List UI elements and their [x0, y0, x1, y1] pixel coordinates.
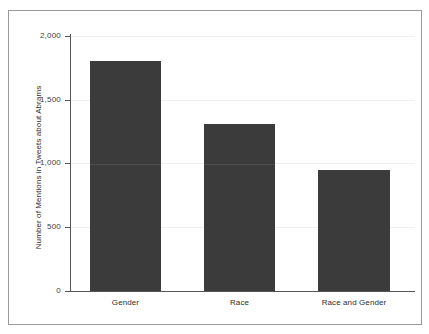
y-tick-mark-1500 — [65, 100, 70, 101]
y-axis-title: Number of Mentions in Tweets about Abram… — [34, 53, 43, 283]
y-tick-mark-1000 — [65, 163, 70, 164]
x-axis-label-race-and-gender: Race and Gender — [318, 298, 390, 307]
y-tick-label-500: 500 — [3, 223, 61, 231]
y-tick-label-1500: 1,500 — [3, 96, 61, 104]
x-axis-label-race: Race — [204, 298, 275, 307]
bar-chart-plot-area: Number of Mentions in Tweets about Abram… — [0, 0, 429, 334]
y-tick-mark-0 — [65, 291, 70, 292]
y-tick-label-1000: 1,000 — [3, 159, 61, 167]
bar-gender[interactable] — [90, 61, 161, 291]
y-tick-mark-2000 — [65, 36, 70, 37]
gridline-overlay-bar-gender — [90, 164, 161, 165]
bar-race-and-gender[interactable] — [318, 170, 390, 291]
y-tick-mark-500 — [65, 227, 70, 228]
x-axis-label-gender: Gender — [90, 298, 161, 307]
gridline-overlay-bar-race — [204, 164, 275, 165]
y-tick-label-2000: 2,000 — [3, 32, 61, 40]
x-axis-line — [70, 291, 415, 292]
y-tick-label-0: 0 — [3, 287, 61, 295]
bar-race[interactable] — [204, 124, 275, 291]
gridline-2000 — [71, 36, 415, 37]
